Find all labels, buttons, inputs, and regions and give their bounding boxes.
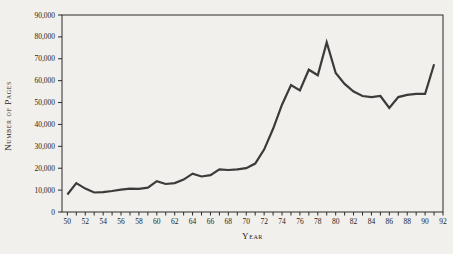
y-axis-title: Number of Pages	[3, 61, 13, 171]
y-tick-label: 20,000	[34, 164, 55, 173]
x-tick-label: 62	[171, 217, 179, 226]
data-line	[67, 42, 434, 194]
y-tick-label: 70,000	[34, 54, 55, 63]
y-tick-label: 90,000	[34, 11, 55, 20]
x-tick-label: 60	[153, 217, 161, 226]
x-tick-label: 72	[260, 217, 268, 226]
x-tick-label: 88	[403, 217, 411, 226]
x-tick-label: 76	[296, 217, 304, 226]
x-tick-label: 68	[225, 217, 233, 226]
x-tick-label: 74	[278, 217, 286, 226]
y-tick-label: 0	[51, 208, 55, 217]
x-tick-label: 82	[350, 217, 358, 226]
x-axis-title: Year	[62, 231, 443, 241]
x-tick-label: 70	[242, 217, 250, 226]
y-tick-label: 40,000	[34, 120, 55, 129]
x-tick-label: 66	[207, 217, 215, 226]
plot-frame	[62, 15, 443, 212]
x-tick-label: 86	[386, 217, 394, 226]
y-tick-label: 50,000	[34, 98, 55, 107]
x-tick-label: 64	[189, 217, 197, 226]
y-tick-label: 10,000	[34, 186, 55, 195]
chart-figure: 010,00020,00030,00040,00050,00060,00070,…	[0, 0, 453, 254]
x-tick-label: 90	[421, 217, 429, 226]
x-tick-label: 80	[332, 217, 340, 226]
x-tick-label: 92	[439, 217, 447, 226]
y-tick-label: 30,000	[34, 142, 55, 151]
y-tick-label: 60,000	[34, 76, 55, 85]
x-tick-label: 78	[314, 217, 322, 226]
x-tick-label: 50	[64, 217, 72, 226]
x-tick-label: 58	[135, 217, 143, 226]
x-tick-label: 54	[99, 217, 107, 226]
x-tick-label: 56	[117, 217, 125, 226]
x-tick-label: 84	[368, 217, 376, 226]
x-tick-label: 52	[82, 217, 90, 226]
y-tick-label: 80,000	[34, 32, 55, 41]
line-chart-canvas: 010,00020,00030,00040,00050,00060,00070,…	[0, 0, 453, 254]
